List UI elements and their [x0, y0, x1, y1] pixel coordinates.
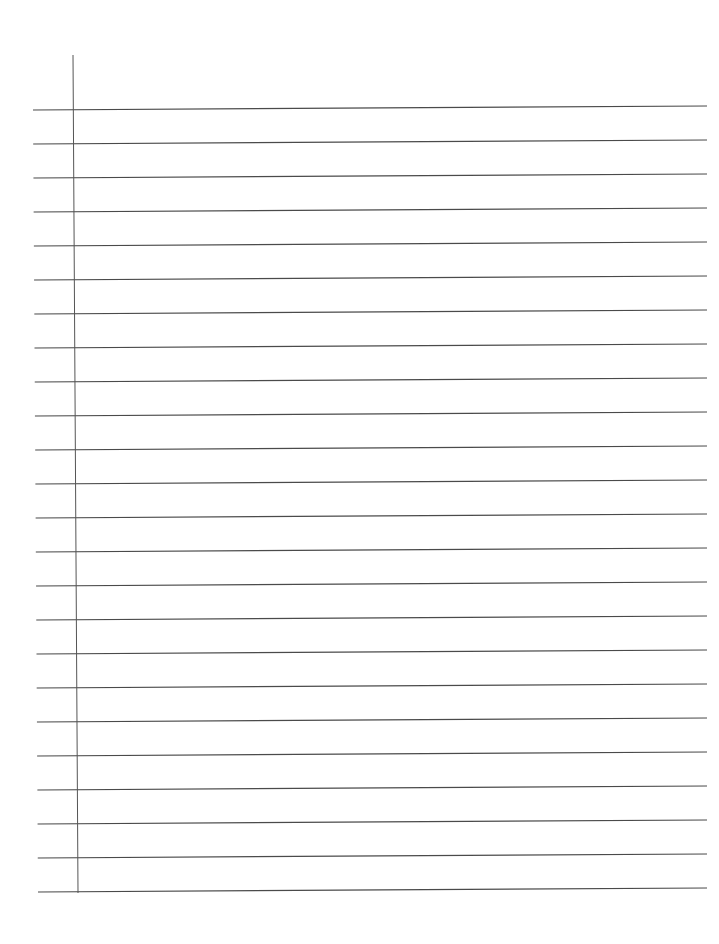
lined-paper-page	[0, 0, 719, 944]
ruled-line	[35, 378, 707, 382]
ruled-line	[37, 684, 707, 688]
ruled-line	[35, 480, 707, 484]
ruled-line	[33, 106, 707, 110]
ruled-line	[34, 276, 707, 280]
ruled-line	[34, 310, 707, 314]
margin-line	[73, 55, 78, 893]
ruled-line	[38, 854, 707, 858]
ruled-line	[36, 514, 707, 518]
ruled-line	[35, 412, 707, 416]
ruled-line	[38, 888, 707, 892]
ruled-line	[37, 786, 707, 790]
ruled-line	[37, 718, 707, 722]
ruled-line	[37, 752, 707, 756]
ruled-line	[33, 140, 707, 144]
ruled-line	[33, 174, 707, 178]
ruled-line	[36, 582, 707, 586]
ruled-line	[38, 820, 707, 824]
ruled-line	[35, 446, 707, 450]
ruled-line	[36, 548, 707, 552]
ruled-line	[35, 344, 707, 348]
ruled-lines	[0, 0, 719, 944]
ruled-line	[36, 616, 707, 620]
ruled-line	[36, 650, 707, 654]
ruled-line	[34, 208, 707, 212]
ruled-line	[34, 242, 707, 246]
